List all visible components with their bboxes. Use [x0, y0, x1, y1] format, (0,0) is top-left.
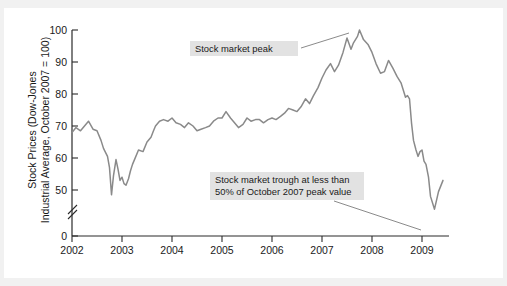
figure-background: Stock Prices (Dow-Jones Industrial Avera… — [0, 0, 507, 286]
trough-annotation-leader — [334, 201, 421, 230]
y-tick-label-0: 0 — [61, 230, 67, 242]
x-tick-label-2009: 2009 — [410, 244, 434, 256]
y-tick-label-70: 70 — [55, 120, 67, 132]
x-tick-label-2007: 2007 — [310, 244, 334, 256]
y-axis-title-line1: Stock Prices (Dow-Jones — [26, 71, 38, 188]
y-tick-label-100: 100 — [49, 24, 67, 36]
y-tick-label-90: 90 — [55, 56, 67, 68]
peak-annotation: Stock market peak — [190, 33, 349, 56]
x-tick-label-2006: 2006 — [260, 244, 284, 256]
y-axis-tick-labels: 100 90 80 70 60 50 0 — [49, 24, 67, 242]
trough-annotation: Stock market trough at less than 50% of … — [210, 172, 421, 230]
x-tick-label-2004: 2004 — [160, 244, 184, 256]
x-tick-label-2008: 2008 — [360, 244, 384, 256]
chart-plate: Stock Prices (Dow-Jones Industrial Avera… — [4, 8, 503, 278]
peak-annotation-label: Stock market peak — [195, 43, 273, 54]
peak-annotation-leader — [301, 33, 349, 48]
y-tick-label-50: 50 — [55, 184, 67, 196]
x-tick-label-2003: 2003 — [110, 244, 134, 256]
y-tick-label-60: 60 — [55, 152, 67, 164]
stock-prices-line-chart: Stock Prices (Dow-Jones Industrial Avera… — [4, 8, 503, 278]
x-axis-ticks — [72, 236, 422, 242]
trough-annotation-label-line2: 50% of October 2007 peak value — [215, 186, 352, 197]
x-tick-label-2002: 2002 — [60, 244, 84, 256]
trough-annotation-label-line1: Stock market trough at less than — [215, 174, 349, 185]
x-tick-label-2005: 2005 — [210, 244, 234, 256]
y-tick-label-80: 80 — [55, 88, 67, 100]
y-axis-title-line2: Industrial Average, October 2007 = 100) — [39, 37, 51, 223]
x-axis-tick-labels: 2002 2003 2004 2005 2006 2007 2008 2009 — [60, 244, 434, 256]
